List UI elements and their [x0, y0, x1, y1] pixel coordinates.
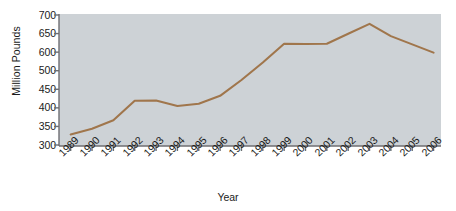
x-axis-title: Year: [0, 191, 456, 203]
x-axis-tick-labels: 1989199019911992199319941995199619971998…: [0, 0, 456, 211]
line-chart-figure: Million Pounds 700650600500450400350300 …: [0, 0, 456, 211]
